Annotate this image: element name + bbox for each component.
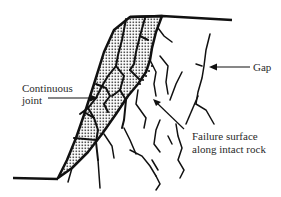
rock-slope-diagram: Continuous joint Gap Failure surface alo… xyxy=(0,0,281,197)
continuous-joint-label-line2: joint xyxy=(21,94,42,106)
toe-ground-line xyxy=(13,178,58,179)
failure-surface-label-line2: along intact rock xyxy=(192,143,266,155)
continuous-joint-arrow xyxy=(48,95,98,102)
failure-surface-label-line1: Failure surface xyxy=(192,130,258,142)
gap-label: Gap xyxy=(253,61,272,73)
continuous-joint-label-line1: Continuous xyxy=(22,82,73,94)
gap-arrow xyxy=(209,64,250,71)
